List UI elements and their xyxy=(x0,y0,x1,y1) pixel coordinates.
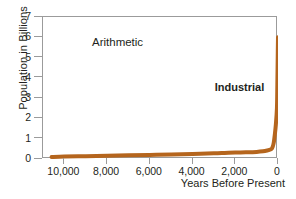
x-tick-mark xyxy=(192,158,193,164)
y-tick-mark xyxy=(34,16,42,17)
population-curve xyxy=(52,37,278,157)
x-tick-mark xyxy=(277,158,278,164)
y-tick: 1 xyxy=(0,132,42,144)
population-arithmetic-chart: Population in Billions 01234567 Arithmet… xyxy=(0,0,296,199)
annotation-industrial: Industrial xyxy=(215,81,265,93)
y-tick-label: 1 xyxy=(7,132,31,144)
y-tick-mark xyxy=(34,117,42,118)
x-tick-mark xyxy=(149,158,150,164)
y-tick-mark xyxy=(34,97,42,98)
x-tick-mark xyxy=(63,158,64,164)
y-tick-mark xyxy=(34,76,42,77)
y-tick: 3 xyxy=(0,91,42,103)
plot-area: Arithmetic Industrial xyxy=(42,16,277,158)
x-axis-title: Years Before Present xyxy=(0,177,285,189)
y-tick-label: 4 xyxy=(7,71,31,83)
y-tick-mark xyxy=(34,36,42,37)
annotation-arithmetic: Arithmetic xyxy=(92,36,143,48)
y-tick-label: 7 xyxy=(7,10,31,22)
y-tick-label: 3 xyxy=(7,91,31,103)
y-tick-label: 5 xyxy=(7,51,31,63)
y-tick: 5 xyxy=(0,51,42,63)
y-tick-mark xyxy=(34,137,42,138)
y-tick: 7 xyxy=(0,10,42,22)
y-tick: 6 xyxy=(0,30,42,42)
x-tick-mark xyxy=(106,158,107,164)
x-tick-mark xyxy=(234,158,235,164)
y-tick-label: 6 xyxy=(7,30,31,42)
y-tick-label: 0 xyxy=(7,152,31,164)
y-tick-mark xyxy=(34,56,42,57)
y-tick-label: 2 xyxy=(7,111,31,123)
y-tick: 2 xyxy=(0,111,42,123)
y-tick: 4 xyxy=(0,71,42,83)
y-tick: 0 xyxy=(0,152,42,164)
y-tick-mark xyxy=(34,158,42,159)
